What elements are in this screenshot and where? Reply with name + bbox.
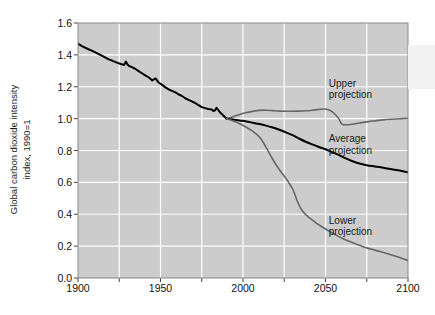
average-projection-label-line1: Average [329, 133, 372, 145]
upper-projection-label-line2: projection [329, 89, 372, 101]
y-tick-label: 1.2 [42, 81, 72, 93]
x-tick-label: 2100 [385, 282, 431, 294]
y-tick-label: 0.6 [42, 176, 72, 188]
lower-projection-label-line2: projection [329, 226, 372, 238]
upper-projection-label: Upperprojection [329, 78, 372, 101]
y-tick-label: 1.6 [42, 17, 72, 29]
y-tick-label: 0.4 [42, 208, 72, 220]
y-tick-label: 1.4 [42, 49, 72, 61]
lower-projection-label-line1: Lower [329, 215, 372, 227]
y-axis-label: Global carbon dioxide intensity index, 1… [4, 20, 38, 278]
x-tick-label: 1950 [138, 282, 184, 294]
average-projection-label: Averageprojection [329, 133, 372, 156]
average-projection-label-line2: projection [329, 145, 372, 157]
chart-figure: Global carbon dioxide intensity index, 1… [0, 0, 435, 315]
upper-projection-label-line1: Upper [329, 78, 372, 90]
y-tick-label: 0.2 [42, 240, 72, 252]
plot-canvas [0, 0, 435, 315]
x-tick-label: 1900 [55, 282, 101, 294]
y-tick-label: 1.0 [42, 113, 72, 125]
background-artifact-rectangle [408, 45, 435, 89]
x-tick-label: 2000 [220, 282, 266, 294]
lower-projection-label: Lowerprojection [329, 215, 372, 238]
y-axis-label-line1: Global carbon dioxide intensity [9, 84, 22, 213]
y-tick-label: 0.8 [42, 145, 72, 157]
y-axis-label-line2: index, 1990=1 [21, 84, 34, 213]
x-tick-label: 2050 [303, 282, 349, 294]
